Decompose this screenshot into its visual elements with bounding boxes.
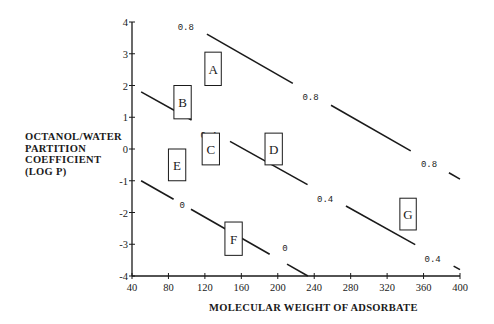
contour-label: 0.8 [178,23,194,33]
y-axis-title: OCTANOL/WATER PARTITION COEFFICIENT (LOG… [25,131,122,177]
contour-line-0-8: 0.80.80.8 [178,23,460,179]
contour-label: 0.8 [421,160,437,170]
region-box-label: E [173,158,181,173]
x-tick-label: 400 [452,282,468,293]
x-tick-label: 120 [197,282,213,293]
contour-label: 0 [179,201,184,211]
x-tick-label: 280 [343,282,359,293]
region-box-label: G [403,207,412,222]
y-tick-label: -1 [119,176,128,187]
region-box-e: E [168,149,185,181]
x-tick-label: 40 [127,282,138,293]
y-tick-label: -4 [119,271,128,282]
y-tick-label: -2 [119,208,128,219]
region-box-g: G [400,198,416,230]
contour-segment [141,181,173,200]
region-box-label: B [178,95,187,110]
contour-label: 0 [282,244,287,254]
y-tick-label: -3 [119,239,128,250]
y-tick-label: 0 [123,144,128,155]
region-box-label: A [208,62,218,77]
contour-label: 0.4 [317,195,333,205]
contour-segment [331,105,411,151]
contour-segment [287,264,308,276]
y-axis-title-line: (LOG P) [25,166,122,178]
region-box-d: D [265,133,282,165]
region-box-a: A [205,52,221,85]
y-axis-title-line: PARTITION [25,143,122,155]
y-tick-label: 4 [123,17,129,28]
contour-segment [449,173,460,179]
x-tick-label: 160 [233,282,249,293]
region-box-label: C [206,142,215,157]
contour-lines: 0.80.80.80.40.40.400 [141,23,460,276]
region-box-label: F [230,232,237,247]
y-tick-label: 3 [123,49,128,60]
region-box-c: C [202,133,219,165]
x-tick-label: 80 [163,282,174,293]
x-tick-label: 240 [306,282,322,293]
y-axis-title-line: COEFFICIENT [25,154,122,166]
y-axis-title-line: OCTANOL/WATER [25,131,122,143]
contour-label: 0.8 [302,93,318,103]
contour-segment [454,266,460,270]
y-tick-label: 2 [123,81,128,92]
region-box-b: B [174,86,191,119]
y-tick-label: 1 [123,112,128,123]
x-tick-label: 320 [379,282,395,293]
x-axis-title: MOLECULAR WEIGHT OF ADSORBATE [209,302,418,313]
region-box-f: F [225,222,242,255]
x-tick-label: 360 [416,282,432,293]
region-box-label: D [269,142,278,157]
contour-label: 0.4 [425,255,441,265]
x-tick-label: 200 [270,282,286,293]
